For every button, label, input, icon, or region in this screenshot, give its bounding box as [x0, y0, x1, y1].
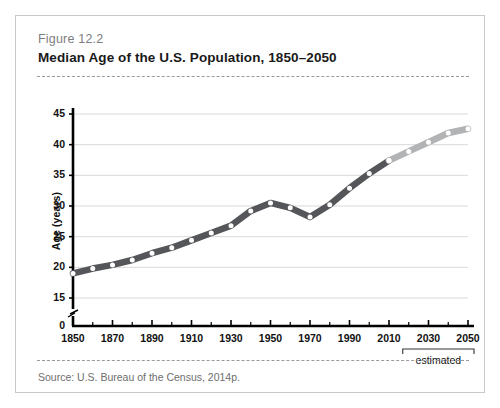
data-point-1910: [189, 238, 194, 243]
data-point-2020: [406, 149, 411, 154]
data-point-2050: [466, 126, 471, 131]
data-point-1960: [288, 205, 293, 210]
data-point-1850: [71, 271, 76, 276]
chart-plot-area: Age (years) 0152025303540451850187018901…: [16, 16, 486, 394]
figure-frame: Figure 12.2 Median Age of the U.S. Popul…: [15, 15, 485, 393]
y-tick-label-25: 25: [39, 230, 65, 242]
data-point-1980: [327, 202, 332, 207]
y-tick-label-15: 15: [39, 291, 65, 303]
y-tick-label-45: 45: [39, 107, 65, 119]
y-axis-break-symbol: [68, 310, 78, 317]
data-point-1900: [169, 245, 174, 250]
data-point-1870: [110, 262, 115, 267]
data-point-1970: [308, 215, 313, 220]
source-note: Source: U.S. Bureau of the Census, 2014p…: [38, 371, 240, 383]
y-tick-label-0: 0: [39, 319, 65, 331]
series-line-0: [73, 161, 389, 274]
data-point-2030: [426, 140, 431, 145]
data-point-1940: [248, 208, 253, 213]
data-point-1990: [347, 186, 352, 191]
y-tick-label-35: 35: [39, 168, 65, 180]
data-point-1950: [268, 200, 273, 205]
data-point-1890: [150, 251, 155, 256]
y-tick-label-20: 20: [39, 260, 65, 272]
y-tick-label-30: 30: [39, 199, 65, 211]
data-point-1920: [209, 230, 214, 235]
x-tick-label-2050: 2050: [445, 332, 491, 344]
data-point-1930: [229, 223, 234, 228]
divider-bottom: [37, 360, 469, 361]
data-point-1860: [90, 266, 95, 271]
data-point-1880: [130, 257, 135, 262]
y-tick-label-40: 40: [39, 138, 65, 150]
data-point-2040: [446, 131, 451, 136]
data-point-2010: [387, 158, 392, 163]
data-point-2000: [367, 171, 372, 176]
